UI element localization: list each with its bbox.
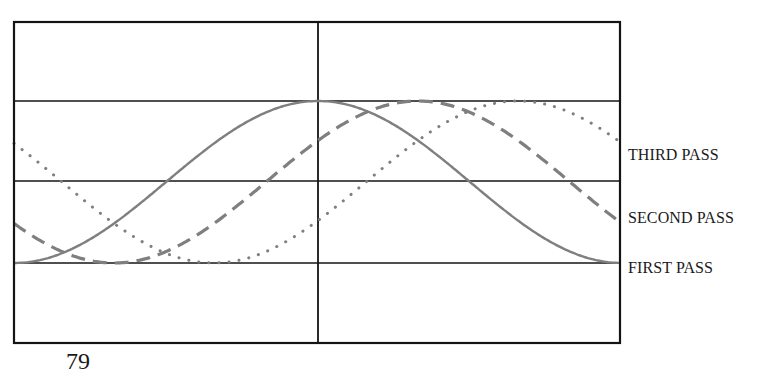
first-pass-curve (14, 101, 620, 263)
page-number: 79 (66, 349, 90, 373)
second-pass-curve (14, 101, 620, 263)
first-pass-label: FIRST PASS (628, 260, 713, 276)
grid-lines (14, 22, 620, 343)
wave-curves (14, 101, 620, 263)
wave-diagram (0, 0, 782, 380)
second-pass-label: SECOND PASS (628, 210, 734, 226)
chart-frame (14, 22, 620, 343)
third-pass-curve (14, 101, 620, 263)
third-pass-label: THIRD PASS (628, 147, 719, 163)
